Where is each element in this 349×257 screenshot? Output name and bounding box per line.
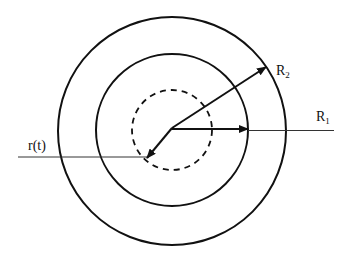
R2-arrow bbox=[172, 67, 266, 128]
R2-label-sub: 2 bbox=[285, 70, 290, 80]
R2-label: R2 bbox=[276, 63, 290, 80]
r-t-label: r(t) bbox=[28, 138, 46, 154]
R1-label: R1 bbox=[316, 109, 330, 126]
concentric-circles-diagram: r(t) R1 R2 bbox=[0, 0, 349, 257]
R1-label-sub: 1 bbox=[325, 116, 330, 126]
r-t-arrow bbox=[147, 128, 172, 158]
